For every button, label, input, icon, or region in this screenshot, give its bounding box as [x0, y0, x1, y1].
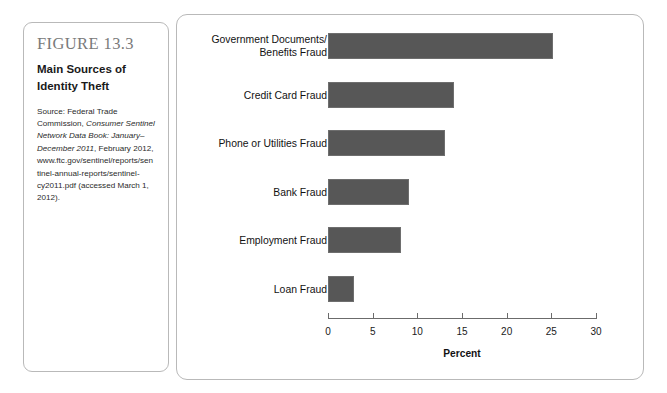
x-axis-tick-label: 20	[501, 326, 512, 337]
x-axis-tick-label: 15	[456, 326, 467, 337]
bar-track	[328, 276, 354, 302]
bar-chart-plot-area: Government Documents/ Benefits FraudCred…	[177, 15, 643, 379]
chart-panel: Government Documents/ Benefits FraudCred…	[176, 14, 644, 380]
bar-fill	[328, 179, 409, 205]
x-axis-tick	[373, 313, 374, 319]
bar-fill	[328, 33, 553, 59]
bar-row: Employment Fraud	[177, 226, 643, 254]
bar-row: Credit Card Fraud	[177, 81, 643, 109]
x-axis-tick-label: 30	[590, 326, 601, 337]
bar-category-label: Employment Fraud	[157, 234, 327, 247]
x-axis-tick	[596, 313, 597, 319]
bar-category-label: Bank Fraud	[157, 185, 327, 198]
bar-track	[328, 227, 401, 253]
bar-track	[328, 33, 553, 59]
x-axis-tick	[328, 313, 329, 319]
figure-number: FIGURE 13.3	[37, 35, 155, 52]
x-axis-tick-label: 25	[546, 326, 557, 337]
bar-track	[328, 130, 445, 156]
x-axis-tick	[462, 313, 463, 319]
figure-source-note: Source: Federal Trade Commission, Consum…	[37, 106, 155, 205]
x-axis-tick-label: 5	[370, 326, 376, 337]
x-axis-tick	[551, 313, 552, 319]
x-axis-title: Percent	[443, 348, 480, 359]
bar-row: Phone or Utilities Fraud	[177, 129, 643, 157]
bar-row: Government Documents/ Benefits Fraud	[177, 32, 643, 60]
figure-title: Main Sources of Identity Theft	[37, 61, 155, 94]
figure-root: FIGURE 13.3 Main Sources of Identity The…	[0, 0, 667, 393]
x-axis-tick	[507, 313, 508, 319]
bar-fill	[328, 130, 445, 156]
x-axis-line: 051015202530	[328, 318, 596, 319]
figure-caption-panel: FIGURE 13.3 Main Sources of Identity The…	[23, 22, 169, 372]
x-axis-tick-label: 10	[412, 326, 423, 337]
x-axis-tick-label: 0	[325, 326, 331, 337]
bar-row: Loan Fraud	[177, 275, 643, 303]
bar-fill	[328, 276, 354, 302]
bar-category-label: Loan Fraud	[157, 282, 327, 295]
bar-track	[328, 179, 409, 205]
bar-track	[328, 82, 454, 108]
bar-category-label: Government Documents/ Benefits Fraud	[157, 33, 327, 59]
x-axis-tick	[417, 313, 418, 319]
bar-fill	[328, 227, 401, 253]
bar-fill	[328, 82, 454, 108]
bar-row: Bank Fraud	[177, 178, 643, 206]
bar-category-label: Phone or Utilities Fraud	[157, 137, 327, 150]
bar-category-label: Credit Card Fraud	[157, 88, 327, 101]
